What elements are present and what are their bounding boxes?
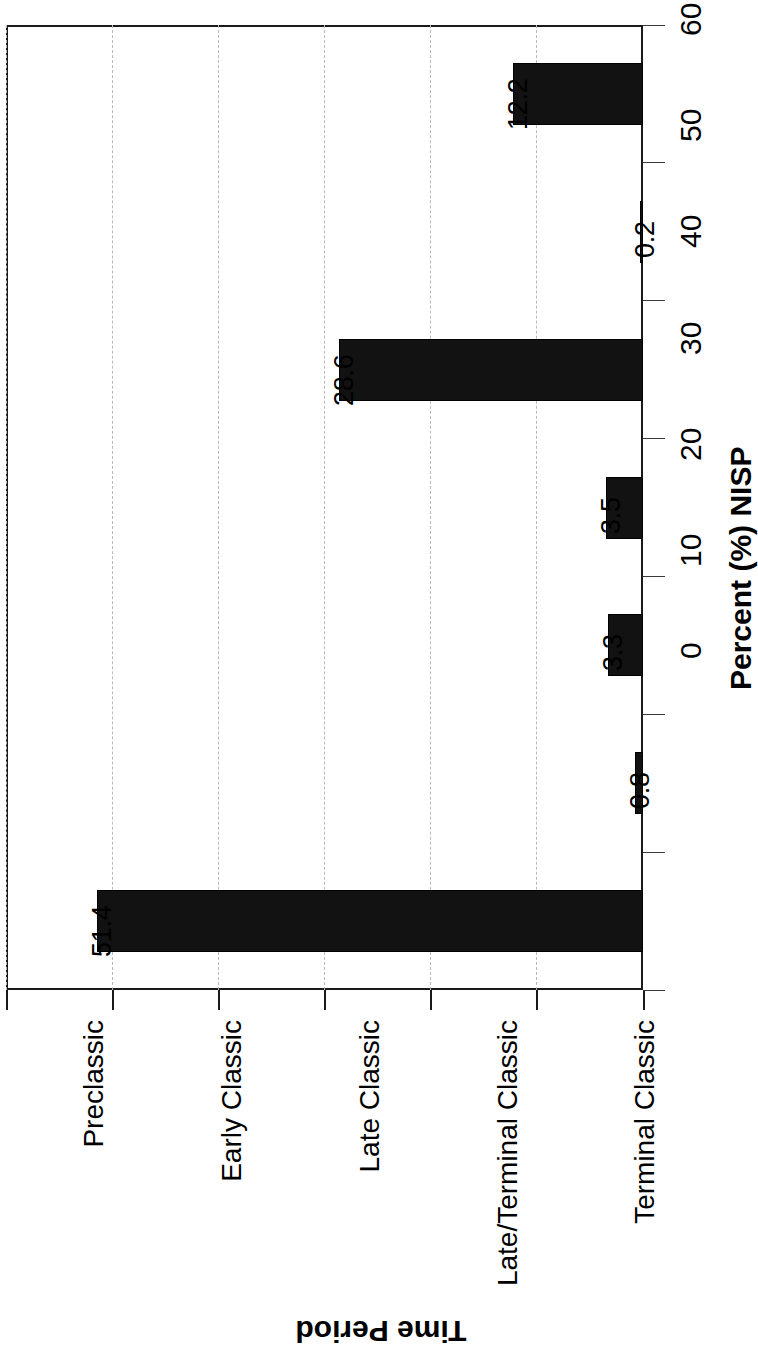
- gridline: [112, 25, 113, 990]
- gridline: [430, 25, 431, 990]
- bar-value-label: 28.6: [331, 354, 358, 405]
- value-axis-tick-label: 60: [676, 3, 706, 36]
- bar-value-label: 3.5: [598, 497, 625, 534]
- category-label: Late/Terminal Classic: [494, 1020, 522, 1286]
- category-tick-mark: [643, 25, 665, 26]
- value-axis-tick-mark: [430, 990, 432, 1010]
- value-axis-tick-label: 50: [676, 109, 706, 142]
- bar: [97, 890, 643, 952]
- category-label: Early Classic: [218, 1020, 246, 1182]
- bar-value-label: 3.3: [600, 635, 627, 672]
- value-axis-tick-mark: [324, 990, 326, 1010]
- category-label: Late Classic: [356, 1020, 384, 1173]
- category-label: Preclassic: [80, 1020, 108, 1148]
- value-axis-tick-label: 0: [676, 642, 706, 659]
- bar-value-label: 51.4: [89, 906, 116, 957]
- value-axis-tick-label: 30: [676, 321, 706, 354]
- category-tick-mark: [643, 852, 665, 853]
- value-axis-tick-mark: [112, 990, 114, 1010]
- value-axis-tick-label: 40: [676, 215, 706, 248]
- gridline: [6, 25, 7, 990]
- gridline: [218, 25, 219, 990]
- category-tick-mark: [643, 714, 665, 715]
- value-axis-tick-label: 10: [676, 533, 706, 566]
- value-axis-tick-label: 20: [676, 427, 706, 460]
- category-label: Terminal Classic: [631, 1020, 659, 1224]
- bar-value-label: 0.8: [627, 773, 654, 810]
- value-axis-title: Percent (%) NISP: [726, 447, 756, 690]
- value-axis-tick-mark: [536, 990, 538, 1010]
- category-tick-mark: [643, 438, 665, 439]
- category-tick-mark: [643, 990, 665, 991]
- category-tick-mark: [643, 576, 665, 577]
- value-axis-tick-mark: [218, 990, 220, 1010]
- category-tick-mark: [643, 300, 665, 301]
- gridline: [324, 25, 325, 990]
- value-axis-tick-mark: [6, 990, 8, 1010]
- bar-value-label: 12.2: [505, 79, 532, 130]
- gridline: [536, 25, 537, 990]
- bar-chart-figure: 12.20.228.63.53.30.851.4 0102030405060 P…: [0, 0, 758, 1370]
- category-tick-mark: [643, 162, 665, 163]
- bar: [339, 339, 643, 401]
- bar-value-label: 0.2: [632, 221, 659, 258]
- value-axis-tick-mark: [643, 990, 645, 1010]
- category-axis-title: Time Period: [261, 1316, 501, 1346]
